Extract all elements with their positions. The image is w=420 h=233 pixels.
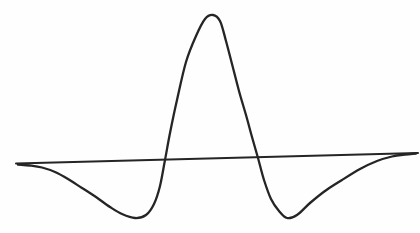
wavelet-plot-canvas: [0, 0, 420, 233]
wavelet-figure: [0, 0, 420, 233]
wavelet-curve: [18, 15, 416, 218]
baseline-axis: [16, 153, 418, 164]
